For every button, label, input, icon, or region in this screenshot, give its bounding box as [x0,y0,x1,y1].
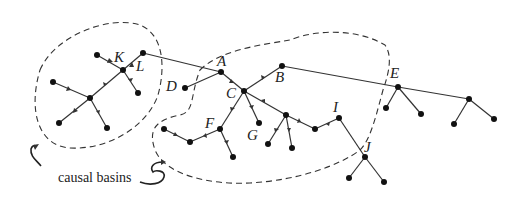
label-f: F [204,115,215,131]
node-left-leaf [50,79,56,85]
causal-network-diagram: K L A D C B F G I J E causal basins [0,0,524,199]
node-left-center [87,95,93,101]
node-f-mid [187,139,193,145]
label-l: L [135,58,144,74]
node-k [120,67,126,73]
basin-center-boundary [152,32,389,183]
label-e: E [389,65,399,81]
node-h-leaf-2 [289,145,295,151]
curly-arrow-left-icon [31,146,41,166]
node-m [312,126,318,132]
node-r-leaf-2 [491,116,497,122]
node-bottom-left-leaf [56,120,62,126]
basin-left-boundary [35,22,162,148]
label-i: I [332,99,339,115]
node-j-leaf-1 [346,175,352,181]
label-j: J [364,139,372,155]
node-i [336,115,342,121]
nodes [50,50,497,185]
node-f-bottom-leaf [230,154,236,160]
node-e-leaf-1 [383,105,389,111]
label-c: C [226,85,237,101]
node-a [218,69,224,75]
node-l [140,50,146,56]
node-f [217,126,223,132]
label-a: A [216,53,227,69]
label-b: B [275,69,284,85]
node-h-leaf-1 [265,141,271,147]
node-e-leaf-2 [418,111,424,117]
curly-arrow-left-head-icon [33,144,39,150]
node-d [182,85,188,91]
node-j-leaf-2 [381,179,387,185]
label-d: D [165,78,177,94]
label-g: G [247,127,258,143]
diagram-canvas: K L A D C B F G I J E causal basins [0,0,524,199]
node-f-far-leaf [161,126,167,132]
node-h [283,112,289,118]
node-c [241,88,247,94]
curly-arrow-right-icon [140,162,164,184]
arrowheads [66,58,330,144]
node-e [395,84,401,90]
node-r-leaf-1 [451,121,457,127]
edges [53,53,494,182]
node-k-right-leaf [135,90,141,96]
label-k: K [113,49,125,65]
node-k-leaf [94,52,100,58]
node-g [256,120,262,126]
node-r [466,96,472,102]
caption-causal-basins: causal basins [58,170,131,185]
node-bottom-mid-leaf [104,125,110,131]
